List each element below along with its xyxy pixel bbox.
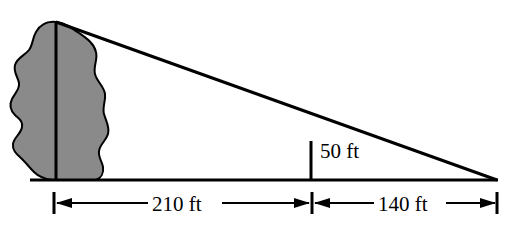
dim-140-left-arrowhead [314,198,330,208]
dim-210-left-arrowhead [56,198,72,208]
diagram-canvas: 50 ft 210 ft 140 ft [0,0,516,235]
similar-triangles-diagram: 50 ft 210 ft 140 ft [0,0,516,235]
near-distance-label: 210 ft [152,192,202,216]
dim-140-right-arrowhead [480,198,496,208]
dim-210-right-arrowhead [294,198,310,208]
far-distance-label: 140 ft [378,192,428,216]
pole-height-label: 50 ft [320,139,359,163]
tree-silhouette-shape [11,22,109,180]
sight-line-hypotenuse [56,22,497,180]
